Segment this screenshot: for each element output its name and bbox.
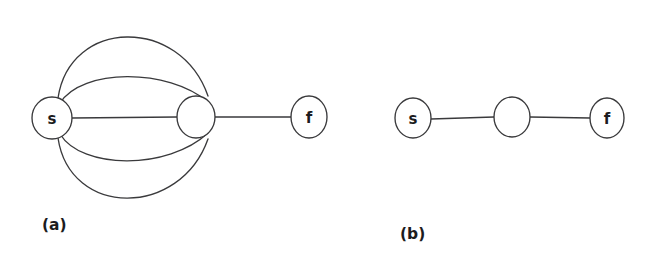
node-b-middle-circle: [494, 97, 530, 137]
node-f-label: f: [306, 109, 313, 127]
panel-a: s f (a): [32, 37, 327, 234]
panel-b-node-s: s: [395, 98, 431, 138]
panel-b-node-f: f: [590, 98, 624, 138]
node-b-f-label: f: [604, 110, 611, 128]
edge-b-mid-f: [530, 117, 590, 118]
edge-b-s-mid: [431, 117, 494, 119]
panel-a-node-s: s: [32, 97, 72, 139]
node-s-label: s: [48, 110, 57, 128]
panel-b-node-middle: [494, 97, 530, 137]
panel-a-node-middle: [177, 96, 215, 138]
edge-s-mid-outer-bottom: [58, 138, 208, 198]
figure-container: s f (a) s: [0, 0, 654, 258]
edge-s-mid-inner-bottom: [60, 133, 208, 161]
panel-b: s f (b): [395, 97, 624, 243]
node-b-s-label: s: [409, 110, 418, 128]
graph-figure-canvas: s f (a) s: [0, 0, 654, 258]
edge-s-mid-straight: [72, 117, 177, 118]
panel-b-caption: (b): [400, 225, 425, 243]
panel-a-caption: (a): [42, 216, 67, 234]
panel-a-edges: [58, 37, 291, 198]
panel-a-node-f: f: [291, 96, 327, 138]
node-middle-circle: [177, 96, 215, 138]
